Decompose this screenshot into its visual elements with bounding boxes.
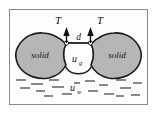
label-solid-left: solid xyxy=(31,50,49,60)
figure-root: T T d u g u w solid solid xyxy=(0,0,157,114)
label-separation-d: d xyxy=(76,32,81,42)
capillary-bridge-diagram: T T d u g u w solid solid xyxy=(0,0,157,114)
label-solid-right: solid xyxy=(108,50,126,60)
label-water-pressure-subscript: w xyxy=(77,88,82,95)
label-tension-left: T xyxy=(55,14,62,26)
label-water-pressure-symbol: u xyxy=(70,82,75,93)
label-tension-right: T xyxy=(97,14,104,26)
label-gas-pressure-symbol: u xyxy=(72,53,77,64)
